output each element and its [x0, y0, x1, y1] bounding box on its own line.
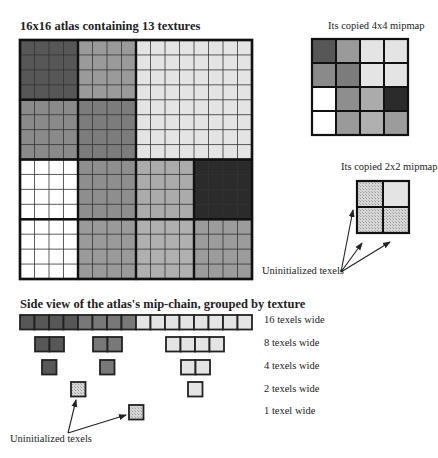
atlas-grid	[20, 40, 252, 279]
side-view-chain	[20, 315, 252, 420]
mip4-grid	[312, 39, 408, 135]
mip2-grid	[357, 181, 409, 233]
